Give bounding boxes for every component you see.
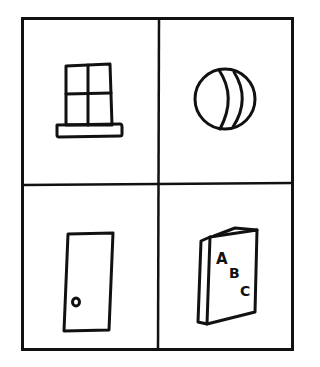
- book-letter-b: B: [229, 265, 240, 281]
- window-icon: [21, 17, 159, 184]
- door-knob-icon: [73, 298, 80, 306]
- cell-ball: [159, 17, 294, 184]
- ball-icon: [159, 17, 294, 184]
- door-icon: [21, 184, 159, 351]
- book-letter-c: C: [240, 283, 250, 299]
- book-letter-a: A: [216, 250, 228, 268]
- book-icon: A B C: [159, 184, 294, 351]
- cell-book: A B C: [159, 184, 294, 351]
- cell-window: [21, 17, 159, 184]
- cell-door: [21, 184, 159, 351]
- picture-grid: A B C: [21, 17, 294, 351]
